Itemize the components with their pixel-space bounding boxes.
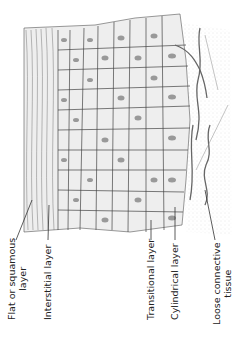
epithelium-block [24, 14, 190, 232]
label-cylindrical-layer: Cylindrical layer [170, 243, 181, 320]
label-transitional-layer: Transitional layer [146, 239, 157, 320]
label-flat-squamous-layer: Flat or squamouslayer [7, 238, 29, 320]
label-loose-connective-tissue: Loose connectivetissue [212, 242, 234, 325]
histology-diagram: Flat or squamouslayer Interstitial layer… [0, 0, 236, 348]
label-interstitial-layer: Interstitial layer [43, 245, 54, 320]
tissue-illustration [0, 0, 236, 348]
